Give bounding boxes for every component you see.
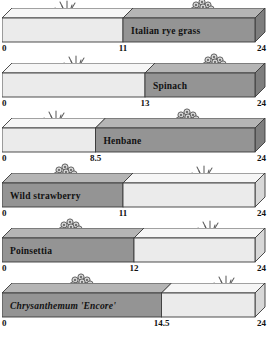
x-axis: 014.524	[2, 318, 266, 330]
axis-tick-end: 24	[257, 98, 266, 108]
species-label: Spinach	[153, 81, 187, 91]
bar-3d-shape	[2, 63, 266, 97]
axis-tick-end: 24	[257, 43, 266, 53]
bar-3d-shape	[2, 8, 266, 42]
species-label: Henbane	[104, 136, 142, 146]
axis-tick-split: 8.5	[90, 153, 101, 163]
species-label: Wild strawberry	[10, 191, 81, 201]
bar-group: Wild strawberry01124	[0, 165, 274, 220]
axis-tick-start: 0	[2, 43, 7, 53]
bar-3d-shape	[2, 228, 266, 262]
axis-tick-end: 24	[257, 263, 266, 273]
bar-group: Spinach01324	[0, 55, 274, 110]
bar-3d-shape	[2, 118, 266, 152]
bar-group: Italian rye grass01124	[0, 0, 274, 55]
x-axis: 08.524	[2, 153, 266, 165]
axis-tick-end: 24	[257, 318, 266, 328]
axis-tick-start: 0	[2, 263, 7, 273]
bar-group: Chrysanthemum 'Encore'014.524	[0, 275, 274, 330]
bar-group: Henbane08.524	[0, 110, 274, 165]
bar-3d-shape	[2, 283, 266, 317]
axis-tick-start: 0	[2, 153, 7, 163]
axis-tick-split: 11	[119, 208, 128, 218]
axis-tick-start: 0	[2, 208, 7, 218]
axis-tick-split: 14.5	[154, 318, 170, 328]
axis-tick-split: 11	[119, 43, 128, 53]
species-label: Poinsettia	[10, 246, 52, 256]
duration-bar	[2, 73, 266, 97]
species-label: Italian rye grass	[131, 26, 200, 36]
axis-tick-split: 13	[141, 98, 150, 108]
axis-tick-start: 0	[2, 318, 7, 328]
axis-tick-end: 24	[257, 208, 266, 218]
bar-3d-shape	[2, 173, 266, 207]
species-label: Chrysanthemum 'Encore'	[10, 301, 116, 311]
axis-tick-start: 0	[2, 98, 7, 108]
chart-canvas: Italian rye grass01124	[0, 0, 274, 343]
bar-group: Poinsettia01224	[0, 220, 274, 275]
axis-tick-split: 12	[130, 263, 139, 273]
axis-tick-end: 24	[257, 153, 266, 163]
